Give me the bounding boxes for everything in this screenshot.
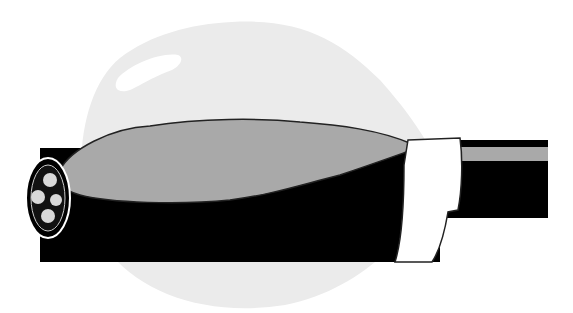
conductor-left [31, 190, 45, 204]
cable-stripe [460, 147, 548, 161]
cable-illustration [0, 0, 573, 313]
conductor-top [43, 173, 57, 187]
conductor-right [50, 194, 62, 206]
conductor-bottom [41, 209, 55, 223]
tape-wrap [395, 138, 462, 262]
